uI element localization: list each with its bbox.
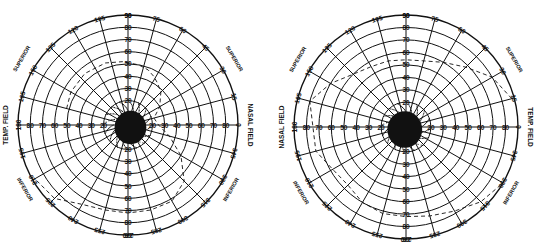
angle-label-105: 105 <box>371 14 384 24</box>
ring-label: 80 <box>124 24 132 31</box>
angle-label-165: 165 <box>17 90 27 103</box>
ring-label: 70 <box>315 124 323 131</box>
meridian-210 <box>33 131 118 180</box>
ring-label: 40 <box>124 73 132 80</box>
meridian-60 <box>134 30 183 115</box>
angle-label-285: 285 <box>150 226 163 236</box>
ring-label: 70 <box>402 211 410 218</box>
angle-label-60: 60 <box>178 25 188 35</box>
ring-label: 30 <box>365 124 373 131</box>
ring-label: 60 <box>402 198 410 205</box>
angle-label-210: 210 <box>303 176 315 189</box>
ring-label: 70 <box>124 36 132 43</box>
quadrant-label-upper-left: SUPERIOR <box>12 45 32 73</box>
angle-label-270: 270 <box>400 236 411 243</box>
polar-grid-left: 2020202030303030404040405050505060606060… <box>0 0 270 249</box>
meridian-165 <box>298 98 394 124</box>
ring-label: 30 <box>402 86 410 93</box>
meridian-105 <box>377 19 403 115</box>
angle-label-255: 255 <box>93 226 106 236</box>
meridian-300 <box>412 138 462 224</box>
ring-label: 80 <box>502 124 510 131</box>
meridian-240 <box>73 136 122 221</box>
meridian-15 <box>418 98 514 124</box>
ring-label: 50 <box>63 122 71 129</box>
ring-label: 20 <box>377 124 385 131</box>
angle-label-300: 300 <box>455 218 468 230</box>
ring-label: 20 <box>149 122 157 129</box>
angle-label-75: 75 <box>431 14 440 23</box>
angle-label-165: 165 <box>293 92 303 105</box>
meridian-315 <box>415 136 485 206</box>
field-label-right: NASAL FIELD <box>247 104 254 147</box>
ring-label: 80 <box>27 122 35 129</box>
ring-label: 50 <box>340 124 348 131</box>
ring-label: 80 <box>124 219 132 226</box>
quadrant-label-upper-left: SUPERIOR <box>288 45 308 73</box>
meridian-255 <box>100 137 125 231</box>
field-label-left: TEMP. FIELD <box>2 105 9 145</box>
ring-label: 70 <box>39 122 47 129</box>
ring-label: 60 <box>124 48 132 55</box>
meridian-345 <box>418 130 514 156</box>
angle-label-195: 195 <box>293 149 303 162</box>
meridian-30 <box>139 70 224 119</box>
meridian-195 <box>298 130 394 156</box>
meridian-120 <box>350 30 400 116</box>
meridian-240 <box>350 138 400 224</box>
visual-field-chart-left: 2020202030303030404040405050505060606060… <box>0 0 270 249</box>
ring-label: 40 <box>173 122 181 129</box>
ring-label: 80 <box>303 124 311 131</box>
quadrant-label-upper-right: SUPERIOR <box>505 45 525 73</box>
angle-label-330: 330 <box>217 174 229 187</box>
meridian-315 <box>137 134 206 203</box>
ring-label: 40 <box>124 170 132 177</box>
ring-label: 80 <box>402 223 410 230</box>
meridian-105 <box>100 19 125 113</box>
meridian-330 <box>417 133 503 183</box>
ring-label: 70 <box>124 207 132 214</box>
blind-spot <box>387 111 422 148</box>
ring-label: 30 <box>124 158 132 165</box>
angle-label-15: 15 <box>510 94 519 103</box>
quadrant-label-upper-right: SUPERIOR <box>225 45 245 73</box>
angle-label-330: 330 <box>497 177 509 190</box>
angle-label-15: 15 <box>230 92 239 101</box>
ring-label: 40 <box>353 124 361 131</box>
ring-label: 30 <box>88 122 96 129</box>
angle-label-270: 270 <box>122 232 133 239</box>
ring-label: 60 <box>328 124 336 131</box>
ring-label: 20 <box>100 122 108 129</box>
ring-label: 50 <box>402 61 410 68</box>
ring-label: 80 <box>402 24 410 31</box>
ring-label: 20 <box>402 99 410 106</box>
blind-spot <box>115 111 147 144</box>
meridian-285 <box>409 139 435 235</box>
angle-label-150: 150 <box>303 64 315 77</box>
meridian-345 <box>140 128 234 153</box>
ring-label: 60 <box>124 195 132 202</box>
ring-label: 30 <box>124 85 132 92</box>
angle-label-255: 255 <box>371 230 384 240</box>
angle-label-195: 195 <box>17 147 27 160</box>
angle-label-240: 240 <box>66 214 79 226</box>
field-label-right: TEMP. FIELD <box>527 107 534 147</box>
angle-label-0: 0 <box>235 123 242 127</box>
ring-label: 20 <box>124 146 132 153</box>
ring-label: 40 <box>402 74 410 81</box>
angle-label-90: 90 <box>124 12 132 19</box>
ring-label: 20 <box>124 97 132 104</box>
ring-label: 50 <box>402 186 410 193</box>
meridian-75 <box>131 19 156 113</box>
meridian-150 <box>33 70 118 119</box>
visual-field-chart-right: 2020202030303030404040405050505060606060… <box>270 0 539 249</box>
ring-label: 50 <box>124 183 132 190</box>
meridian-60 <box>412 30 462 116</box>
ring-label: 60 <box>198 122 206 129</box>
meridian-135 <box>327 48 397 118</box>
angle-label-180: 180 <box>291 121 298 132</box>
angle-label-90: 90 <box>402 12 410 19</box>
ring-label: 40 <box>452 124 460 131</box>
ring-label: 70 <box>210 122 218 129</box>
angle-label-285: 285 <box>428 230 441 240</box>
